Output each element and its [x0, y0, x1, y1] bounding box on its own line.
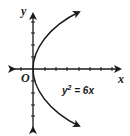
x-axis-label: x	[118, 72, 124, 87]
origin-label: O	[21, 71, 30, 86]
equation-label: y2 = 6x	[62, 84, 94, 96]
parabola-upper-branch	[33, 12, 79, 69]
parabola-graph	[0, 0, 130, 136]
parabola-lower-branch	[33, 69, 79, 126]
equation-rhs: = 6x	[71, 85, 94, 96]
y-axis-label: y	[21, 4, 26, 19]
